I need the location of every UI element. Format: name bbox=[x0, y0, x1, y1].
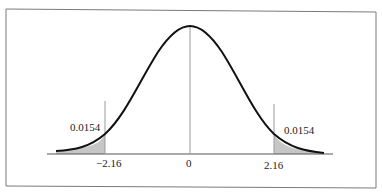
right-tail-shade bbox=[274, 134, 324, 154]
tick-label-neg: −2.16 bbox=[96, 157, 122, 169]
left-area-label: 0.0154 bbox=[70, 121, 101, 133]
tick-label-pos: 2.16 bbox=[264, 159, 284, 171]
normal-distribution-chart: 0.0154 0.0154 −2.16 0 2.16 bbox=[0, 0, 382, 194]
right-area-label: 0.0154 bbox=[284, 124, 315, 136]
tick-label-zero: 0 bbox=[186, 157, 192, 169]
